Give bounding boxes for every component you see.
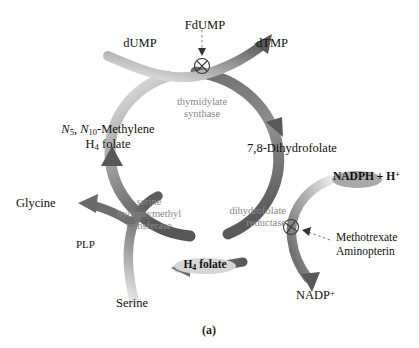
methotrexate-line: Methotrexate (336, 231, 397, 245)
n10-sub: 10 (89, 127, 98, 137)
dhfr-line-1: dihydrofolate (214, 205, 286, 217)
ts-line-2: synthase (177, 108, 227, 120)
methotrexate-inhibition-line (308, 232, 330, 240)
methylene-line-1: N5, N10-Methylene (61, 122, 154, 137)
h-letter: H (86, 137, 95, 151)
label-dtmp: dTMP (256, 36, 288, 50)
shmt-line-1: serine (112, 196, 186, 208)
label-methylene-h4-folate: N5, N10-Methylene H4 folate (61, 122, 154, 153)
label-glycine: Glycine (16, 196, 56, 210)
label-serine-hydroxymethyl-transferase: serine hydroxymethyl transferase (112, 196, 186, 232)
nadph-plus: + H (374, 170, 395, 182)
label-serine: Serine (116, 296, 148, 310)
h4-h: H (183, 258, 192, 270)
label-fdump: FdUMP (185, 18, 225, 32)
h4-folate-word: folate (196, 258, 226, 270)
methylene-rest: -Methylene (97, 122, 155, 136)
nadph-to-nadp-arrow (291, 180, 330, 278)
label-dihydrofolate-reductase: dihydrofolate reductase (214, 205, 286, 229)
label-methotrexate-aminopterin: Methotrexate Aminopterin (336, 231, 397, 258)
label-thymidylate-synthase: thymidylate synthase (177, 96, 227, 120)
label-nadph: NADPH + H+ (333, 170, 400, 183)
label-dump: dUMP (123, 36, 156, 50)
methylene-line-2: H4 folate (61, 137, 154, 152)
label-dihydrofolate: 7,8-Dihydrofolate (247, 141, 337, 155)
shmt-line-3: transferase (112, 220, 186, 232)
n5-sub: 5 (70, 127, 74, 137)
nadp-name: NADP (296, 288, 330, 302)
folate-word: folate (99, 137, 131, 151)
figure-caption: (a) (202, 323, 216, 338)
nadp-sup: + (330, 288, 335, 298)
methotrexate-inhibition-arrowhead (302, 227, 311, 236)
fdump-inhibition-arrowhead (198, 48, 206, 56)
nadph-name: NADPH (333, 170, 374, 182)
glycine-arrowhead (78, 194, 98, 213)
ts-line-1: thymidylate (177, 96, 227, 108)
nadph-sup: + (395, 170, 399, 179)
aminopterin-line: Aminopterin (336, 245, 397, 259)
label-nadp: NADP+ (296, 288, 335, 302)
label-plp: PLP (76, 238, 95, 250)
dhfr-line-2: reductase (214, 217, 286, 229)
figure-canvas: dUMP dTMP FdUMP 7,8-Dihydrofolate N5, N1… (0, 0, 419, 348)
n10-italic: N (80, 122, 88, 136)
shmt-line-2: hydroxymethyl (112, 208, 186, 220)
label-h4-folate: H4 folate (183, 258, 226, 272)
